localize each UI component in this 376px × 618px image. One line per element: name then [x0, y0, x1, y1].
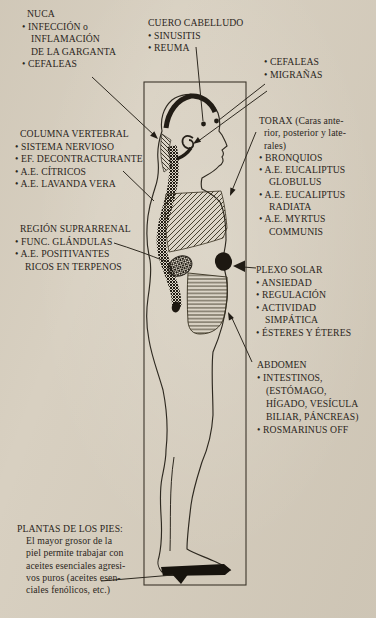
label-line: • CEFALEAS	[264, 56, 323, 69]
label-title: CUERO CABELLUDO	[148, 17, 243, 30]
label-line: • A.E. POSITIVANTES	[15, 248, 131, 261]
label-line: DE LA GARGANTA	[22, 46, 116, 59]
label-line: • ROSMARINUS OFF	[257, 423, 359, 436]
arrowhead-abdomen	[228, 312, 234, 320]
label-nuca: NUCA • INFECCIÓN o INFLAMACIÓN DE LA GAR…	[22, 8, 116, 71]
label-title: PLANTAS DE LOS PIES:	[17, 523, 125, 535]
label-line: • A.E. EUCALIPTUS	[259, 189, 346, 201]
label-columna-vertebral: COLUMNA VERTEBRAL • SISTEMA NERVIOSO • E…	[15, 128, 143, 191]
label-line: • INTESTINOS,	[257, 371, 359, 384]
label-line: vos puros (aceites esen-	[17, 572, 125, 584]
label-torax: TORAX (Caras ante- rior, posterior y lat…	[259, 115, 346, 238]
label-line: • BRONQUIOS	[259, 152, 346, 164]
scalp-region	[166, 96, 215, 128]
label-title: PLEXO SOLAR	[256, 264, 351, 277]
label-cuero-cabelludo: CUERO CABELLUDO • SINUSITIS • REUMA	[148, 17, 243, 55]
foot-sole-region	[161, 564, 231, 576]
label-line: • CEFALEAS	[22, 58, 116, 71]
label-line: El mayor grosor de la	[17, 535, 125, 547]
label-line: • FUNC. GLÁNDULAS	[15, 236, 131, 249]
arrowhead-plexo	[233, 261, 245, 273]
label-plantas-pies: PLANTAS DE LOS PIES: El mayor grosor de …	[17, 523, 125, 596]
pointer-torax	[231, 132, 256, 193]
label-title: REGIÓN SUPRARRENAL	[15, 223, 131, 236]
label-line: RICOS EN TERPENOS	[15, 261, 131, 274]
label-line: • MIGRAÑAS	[264, 69, 323, 82]
label-line: • ÉSTERES Y ÉTERES	[256, 327, 351, 340]
label-title: NUCA	[22, 8, 116, 21]
label-line: (ESTÓMAGO,	[257, 384, 359, 397]
label-line: ciales fenólicos, etc.)	[17, 584, 125, 596]
label-line: • A.E. LAVANDA VERA	[15, 178, 143, 191]
label-line: rales)	[259, 140, 346, 152]
label-line: aceites esenciales agresi-	[17, 560, 125, 572]
ear-base-stroke	[177, 148, 191, 159]
pointer-cuero-cabelludo	[196, 47, 203, 121]
label-plexo-solar: PLEXO SOLAR • ANSIEDAD • REGULACIÓN • AC…	[256, 264, 351, 340]
label-line: • EF. DECONTRACTURANTE	[15, 153, 143, 166]
label-line: • REUMA	[148, 42, 243, 55]
label-line: piel permite trabajar con	[17, 547, 125, 559]
label-line: • A.E. EUCALIPTUS	[259, 164, 346, 176]
label-title: ABDOMEN	[257, 358, 359, 371]
label-line: • A.E. CÍTRICOS	[15, 166, 143, 179]
arrowhead-torax	[230, 188, 236, 197]
label-line: RADIATA	[259, 201, 346, 213]
body-outline	[147, 94, 230, 572]
label-line: • SISTEMA NERVIOSO	[15, 141, 143, 154]
ear-icon	[183, 136, 194, 149]
solar-plexus-region	[213, 251, 233, 273]
label-line: BILIAR, PÁNCREAS)	[257, 410, 359, 423]
thorax-region	[165, 191, 227, 252]
far-leg-line	[170, 457, 174, 551]
foot-sole-wedge	[171, 573, 189, 584]
label-line: • SINUSITIS	[148, 30, 243, 43]
label-line: INFLAMACIÓN	[22, 33, 116, 46]
label-line: • ACTIVIDAD	[256, 302, 351, 315]
label-abdomen: ABDOMEN • INTESTINOS, (ESTÓMAGO, HÍGADO,…	[257, 358, 359, 436]
label-line: SIMPÁTICA	[256, 314, 351, 327]
label-line: • INFECCIÓN o	[22, 21, 116, 34]
label-line: GLOBULUS	[259, 176, 346, 188]
label-line: • A.E. MYRTUS	[259, 213, 346, 225]
label-region-suprarrenal: REGIÓN SUPRARRENAL • FUNC. GLÁNDULAS • A…	[15, 223, 131, 274]
label-line: COMMUNIS	[259, 226, 346, 238]
label-line: • REGULACIÓN	[256, 289, 351, 302]
head-dot-2	[214, 119, 219, 124]
head-dot-1	[201, 122, 206, 127]
label-line: HÍGADO, VESÍCULA	[257, 397, 359, 410]
abdomen-region	[187, 273, 227, 334]
pointer-abdomen	[231, 316, 252, 362]
label-title: COLUMNA VERTEBRAL	[15, 128, 143, 141]
arrowhead-cefaleas	[193, 137, 201, 144]
label-line: rior, posterior y late-	[259, 127, 346, 139]
scanned-page: NUCA • INFECCIÓN o INFLAMACIÓN DE LA GAR…	[0, 0, 376, 618]
label-line: • ANSIEDAD	[256, 277, 351, 290]
label-cefaleas-migranas: • CEFALEAS • MIGRAÑAS	[264, 56, 323, 81]
label-title: TORAX (Caras ante-	[259, 115, 346, 127]
